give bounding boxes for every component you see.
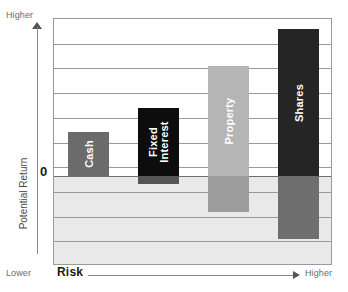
- y-axis-arrow-icon: [32, 22, 43, 254]
- risk-return-chart: Higher Lower Higher 0 Risk Potential Ret…: [0, 0, 348, 292]
- bar-negative-segment: [208, 176, 249, 212]
- y-axis-bottom-label: Lower: [6, 268, 31, 278]
- bar-cash[interactable]: Cash: [68, 132, 109, 176]
- bar-positive-segment: [278, 29, 319, 176]
- bar-fixed-interest[interactable]: FixedInterest: [138, 108, 179, 184]
- x-axis-right-label: Higher: [305, 268, 332, 278]
- bar-negative-segment: [138, 176, 179, 184]
- x-axis-arrow-icon: [88, 271, 300, 280]
- bar-property[interactable]: Property: [208, 66, 249, 212]
- bar-positive-segment: [68, 132, 109, 176]
- bar-negative-segment: [278, 176, 319, 239]
- y-axis-top-label: Higher: [6, 10, 33, 20]
- gridline: [54, 241, 331, 242]
- x-axis-title: Risk: [57, 265, 83, 279]
- plot-area: CashFixedInterestPropertyShares: [53, 18, 332, 265]
- bar-positive-segment: [208, 66, 249, 176]
- y-axis-title: Potential Return: [18, 149, 29, 239]
- bar-shares[interactable]: Shares: [278, 29, 319, 239]
- bar-positive-segment: [138, 108, 179, 176]
